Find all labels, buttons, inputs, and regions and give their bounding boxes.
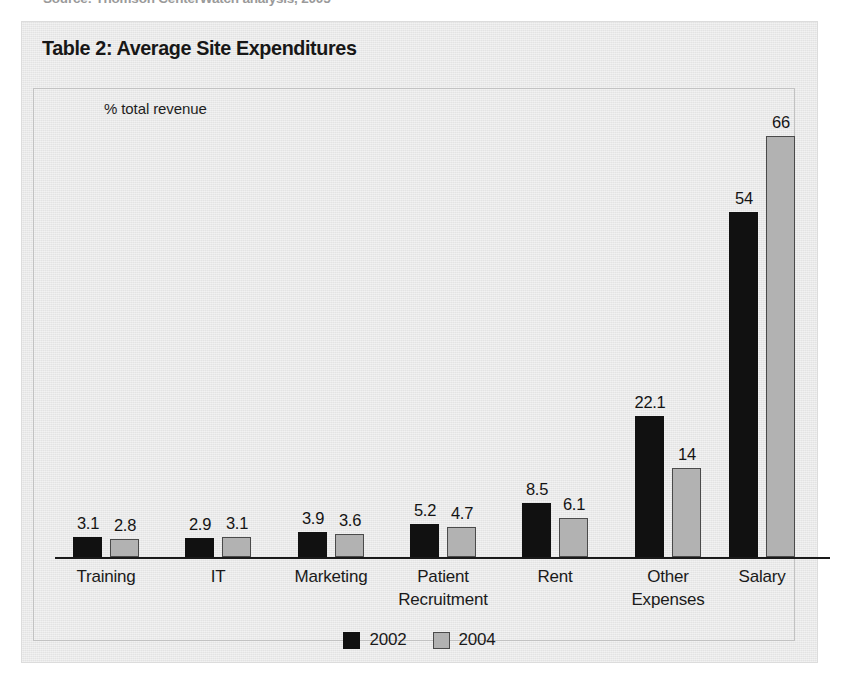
swatch-2002-icon [343, 632, 360, 649]
bar-2004-rent [559, 518, 588, 557]
bar-2002-salary [729, 212, 758, 557]
bar-2002-training [73, 537, 102, 557]
bar-2004-it [222, 537, 251, 557]
bar-2002-marketing [298, 532, 327, 557]
bar-value-label: 14 [657, 445, 717, 464]
category-label-line2: Expenses [593, 588, 743, 611]
legend-item-2004: 2004 [433, 630, 496, 650]
legend-item-2002: 2002 [343, 630, 406, 650]
swatch-2004-icon [433, 632, 450, 649]
category-label-line1: Rent [537, 567, 572, 586]
bar-value-label: 2.8 [95, 516, 155, 535]
bar-2004-patient-recruitment [447, 527, 476, 557]
bar-2004-marketing [335, 534, 364, 557]
bar-value-label: 3.6 [320, 511, 380, 530]
category-label-line1: IT [211, 567, 226, 586]
bar-2004-salary [766, 136, 795, 557]
bar-2004-training [110, 539, 139, 557]
category-label-line1: Training [76, 567, 135, 586]
bar-value-label: 66 [751, 113, 811, 132]
x-axis-category-labels: TrainingITMarketingPatientRecruitmentRen… [55, 565, 830, 621]
category-label-line1: Marketing [295, 567, 368, 586]
bar-value-label: 4.7 [432, 504, 492, 523]
x-axis-baseline [55, 557, 830, 559]
category-label-salary: Salary [687, 565, 837, 588]
bar-chart-plot-area: 3.12.82.93.13.93.65.24.78.56.122.1145466 [55, 110, 830, 557]
bar-2002-it [185, 538, 214, 557]
page-title: Table 2: Average Site Expenditures [42, 36, 357, 60]
bar-value-label: 54 [714, 189, 774, 208]
bar-value-label: 22.1 [620, 393, 680, 412]
bar-value-label: 3.1 [207, 514, 267, 533]
chart-legend: 20022004 [22, 630, 817, 650]
category-label-line1: Patient [417, 567, 469, 586]
bar-value-label: 6.1 [544, 495, 604, 514]
legend-label: 2004 [459, 630, 496, 650]
figure-panel: Table 2: Average Site Expenditures % tot… [22, 22, 817, 662]
category-label-line1: Other [647, 567, 689, 586]
bar-2002-patient-recruitment [410, 524, 439, 557]
bar-2004-other-expenses [672, 468, 701, 557]
bar-2002-other-expenses [635, 416, 664, 557]
source-note-text: Source: Thomson CenterWatch analysis, 20… [43, 0, 330, 6]
category-label-line1: Salary [739, 567, 786, 586]
category-label-line2: Recruitment [368, 588, 518, 611]
legend-label: 2002 [369, 630, 406, 650]
source-note-cropped: Source: Thomson CenterWatch analysis, 20… [0, 0, 842, 14]
